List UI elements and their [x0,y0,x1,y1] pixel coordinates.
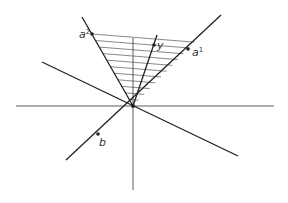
coordinate-axes [16,38,274,190]
hatch-line [92,34,195,42]
hatched-cone-region [92,34,195,100]
hatch-line [99,47,183,54]
label-a2: a2 [79,28,90,41]
point-a1 [186,47,190,51]
hatch-line [107,60,172,65]
label-y: y [156,39,164,52]
cone-diagram: a2ya1b [0,0,288,203]
diagram-canvas: a2ya1b [0,0,288,203]
hatch-line [111,67,167,71]
hatch-line [103,54,178,60]
hatch-line [122,86,150,88]
line-a1-b [66,15,221,160]
line-diagonal [42,62,238,156]
hatch-line [96,41,189,48]
label-b: b [99,136,106,149]
point-a2 [90,32,94,36]
point-y [152,43,156,47]
label-a1: a1 [192,46,203,59]
hatch-line [114,73,161,77]
hatch-line [126,93,145,94]
origin-point [131,104,135,108]
